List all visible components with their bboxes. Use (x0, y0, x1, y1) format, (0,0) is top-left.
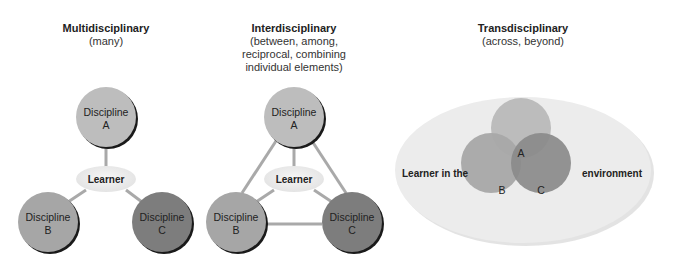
discipline-b-letter: B (44, 224, 51, 236)
multidisciplinary-diagram: Discipline A Learner Discipline B Discip… (18, 87, 194, 254)
interdisciplinary-diagram: Discipline A Learner Discipline B Discip… (206, 87, 384, 254)
discipline-a-letter: A (290, 119, 297, 131)
venn-label-a: A (517, 147, 524, 159)
learner-node: Learner (264, 166, 324, 192)
venn-label-b: B (498, 184, 505, 196)
discipline-c-node: Discipline C (132, 192, 194, 254)
learner-label: Learner (88, 174, 125, 185)
discipline-b-label: Discipline (214, 211, 259, 223)
discipline-c-letter: C (158, 224, 166, 236)
transdisciplinary-diagram: A B C Learner in the environment (395, 97, 654, 246)
discipline-a-label: Discipline (84, 106, 129, 118)
venn-label-c: C (537, 184, 545, 196)
discipline-c-label: Discipline (330, 211, 375, 223)
discipline-c-label: Discipline (140, 211, 185, 223)
discipline-a-node: Discipline A (76, 87, 138, 149)
learner-in-the-label: Learner in the (402, 168, 469, 179)
discipline-c-letter: C (348, 224, 356, 236)
discipline-c-node: Discipline C (322, 192, 384, 254)
learner-label: Learner (276, 174, 313, 185)
diagram-canvas: Discipline A Learner Discipline B Discip… (0, 0, 674, 279)
learner-node: Learner (76, 166, 136, 192)
environment-label: environment (582, 168, 643, 179)
discipline-b-letter: B (232, 224, 239, 236)
discipline-a-node: Discipline A (264, 87, 326, 149)
discipline-b-label: Discipline (26, 211, 71, 223)
discipline-a-label: Discipline (272, 106, 317, 118)
discipline-a-letter: A (102, 119, 109, 131)
